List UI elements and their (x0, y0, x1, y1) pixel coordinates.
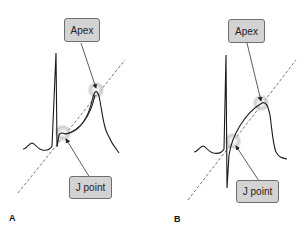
panel-label-b: B (174, 214, 181, 224)
tangent-line-a (18, 60, 125, 193)
apex-label-b: Apex (228, 19, 265, 43)
apex-arrow-a (81, 43, 96, 88)
apex-highlight-a (87, 81, 105, 99)
tangent-line-b (188, 60, 296, 200)
ecg-trace-a (23, 53, 119, 153)
j-point-arrow-a (66, 139, 90, 178)
panel-a (18, 43, 125, 193)
panel-b (188, 43, 296, 200)
apex-label-a: Apex (64, 18, 100, 42)
j-point-arrow-b (236, 146, 259, 181)
j-point-label-a: J point (69, 176, 112, 199)
panel-label-a: A (9, 213, 16, 223)
j-point-label-b: J point (236, 180, 279, 203)
apex-arrow-b (247, 43, 261, 101)
ecg-trace-b (194, 55, 287, 188)
